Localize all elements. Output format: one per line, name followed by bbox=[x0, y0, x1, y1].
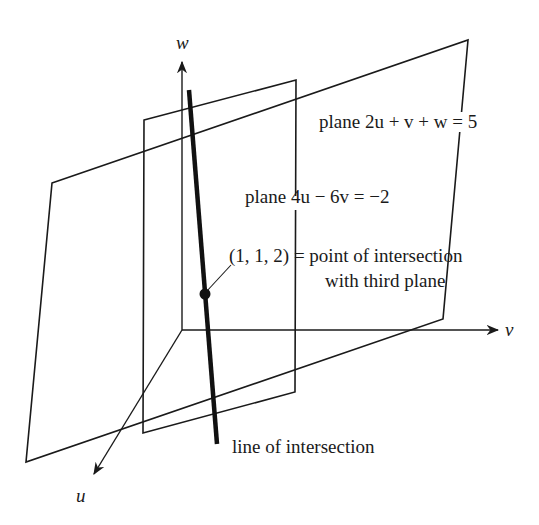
intersection-point bbox=[200, 289, 211, 300]
u-axis-label: u bbox=[76, 485, 86, 506]
w-axis-label: w bbox=[176, 32, 189, 53]
v-axis-label: v bbox=[505, 319, 514, 340]
intersection-diagram: w v u plane 2u + v + w = 5 plane 4u − 6v… bbox=[0, 0, 539, 525]
u-axis bbox=[94, 330, 182, 474]
point-leader bbox=[206, 265, 231, 292]
line-label: line of intersection bbox=[232, 436, 375, 457]
point-label-line1: (1, 1, 2) = point of intersection bbox=[229, 245, 463, 267]
plane2-label: plane 4u − 6v = −2 bbox=[245, 186, 390, 207]
plane1-label: plane 2u + v + w = 5 bbox=[319, 111, 477, 132]
point-label-line2: with third plane bbox=[325, 270, 445, 291]
line-of-intersection bbox=[189, 90, 217, 444]
